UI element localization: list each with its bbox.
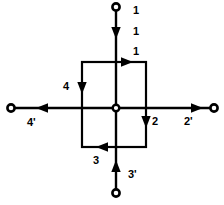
arrow-box-bottom-left-icon (96, 142, 108, 151)
label-branch-2-prime: 2' (184, 116, 193, 127)
label-box-edge-4: 4 (63, 81, 69, 92)
arrow-box-right-down-icon (141, 116, 150, 128)
terminal-node-top (112, 3, 119, 10)
arrow-box-top-right-icon (121, 57, 133, 66)
arrow-right-lead-right-icon (191, 103, 203, 112)
arrow-bottom-lead-up-icon (111, 160, 120, 172)
center-junction-node (113, 105, 120, 112)
label-box-edge-3: 3 (93, 155, 99, 166)
diagram-canvas: 1 1 1 4 4' 2 2' 3 3' (0, 0, 224, 205)
label-branch-1-lead: 1 (133, 26, 139, 37)
label-branch-4-prime: 4' (27, 117, 36, 128)
arrow-left-lead-left-icon (36, 103, 48, 112)
arrow-box-left-down-icon (77, 82, 86, 94)
label-box-edge-1: 1 (133, 46, 139, 57)
label-branch-3-prime: 3' (128, 169, 137, 180)
terminal-node-right (210, 104, 217, 111)
label-box-edge-2: 2 (152, 116, 158, 127)
circuit-schematic (0, 0, 224, 205)
terminal-node-bottom (112, 189, 119, 196)
terminal-node-left (7, 104, 14, 111)
arrow-top-lead-down-icon (111, 27, 120, 39)
label-branch-1-terminal: 1 (133, 5, 139, 16)
